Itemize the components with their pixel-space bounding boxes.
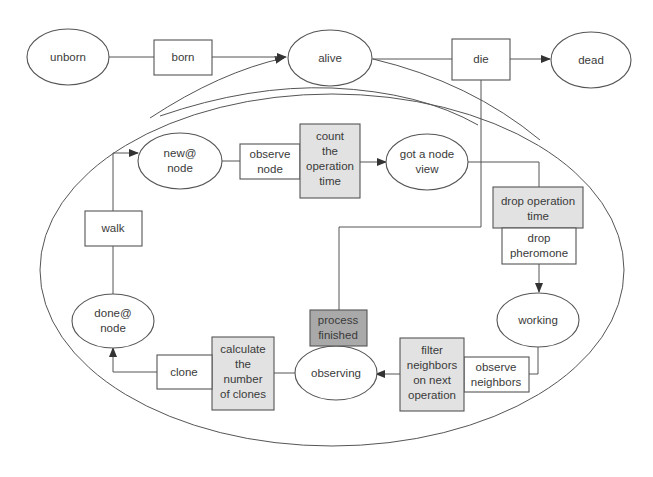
label: of clones [220,388,266,400]
label: neighbors [407,359,458,371]
label: the [322,145,338,157]
transition-clone[interactable]: clone [157,355,212,389]
label: new@ [164,147,197,159]
label: node [167,162,193,174]
label: observing [311,367,361,379]
label: process [318,314,359,326]
label: alive [318,52,342,64]
state-got-node-view[interactable]: got a node view [386,134,468,190]
label: drop [527,232,550,244]
label: on next [413,374,452,386]
edge-working-obsneighbors [529,347,538,374]
transition-drop-pheromone[interactable]: drop pheromone [502,228,576,264]
label: born [171,51,194,63]
label: view [415,163,439,175]
label: walk [100,222,124,234]
label: time [527,210,549,222]
label: neighbors [471,376,522,388]
label: got a node [400,148,454,160]
edge-clone-done [113,348,157,372]
label: filter [421,344,443,356]
label: node [100,322,126,334]
label: die [473,53,488,65]
label: time [319,175,341,187]
state-done-at-node[interactable]: done@ node [72,294,154,348]
action-calculate-clones[interactable]: calculate the number of clones [212,337,274,410]
state-alive[interactable]: alive [288,30,372,86]
label: number [224,373,263,385]
edge-walk-new [113,153,138,211]
label: operation [306,160,354,172]
label: observe [250,148,291,160]
state-dead[interactable]: dead [551,32,631,88]
label: working [517,314,558,326]
action-filter-neighbors[interactable]: filter neighbors on next operation [400,338,464,411]
label: observe [476,361,517,373]
label: operation [408,389,456,401]
state-diagram: unborn born alive die dead new@ node obs… [0,0,653,477]
transition-observe-node[interactable]: observe node [240,144,300,179]
state-working[interactable]: working [497,293,579,347]
label: calculate [220,343,265,355]
transition-die[interactable]: die [452,39,510,80]
transition-born[interactable]: born [154,40,212,75]
label: drop operation [501,195,575,207]
label: node [257,163,283,175]
label: finished [318,329,358,341]
transition-observe-neighbors[interactable]: observe neighbors [464,357,529,392]
edge-gotview-dropop [468,162,539,187]
label: dead [578,54,604,66]
label: pheromone [510,247,568,259]
label: clone [170,366,198,378]
label: done@ [94,307,131,319]
state-unborn[interactable]: unborn [27,29,109,85]
label: unborn [50,51,86,63]
edge-curve-inner [160,88,478,125]
action-count-operation-time[interactable]: count the operation time [300,124,360,198]
label: the [235,358,251,370]
label: count [316,130,345,142]
action-drop-operation-time[interactable]: drop operation time [493,187,583,228]
state-new-at-node[interactable]: new@ node [138,133,222,189]
transition-walk[interactable]: walk [85,211,142,246]
state-observing[interactable]: observing [295,346,377,400]
action-process-finished[interactable]: process finished [310,310,367,346]
